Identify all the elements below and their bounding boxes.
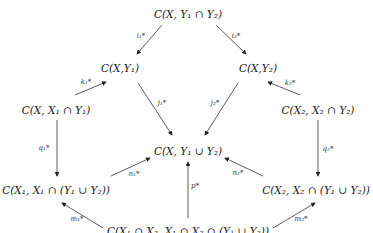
label-q2: q₂* (323, 145, 334, 153)
label-j2: j₂* (211, 99, 219, 107)
node-bottom: C(X₁ ∩ X₂, X₁ ∩ X₂ ∩ (Y₁ ∪ Y₂)) (107, 225, 269, 233)
node-right-upper: C(X,Y₂) (239, 62, 277, 74)
arrow-j1 (138, 83, 172, 135)
label-k2: k₂* (285, 79, 296, 87)
arrows-layer (0, 0, 373, 233)
node-top: C(X, Y₁ ∩ Y₂) (154, 8, 222, 20)
node-center: C(X, Y₁ ∪ Y₂) (154, 145, 222, 157)
label-m2: m₂* (295, 215, 308, 223)
label-n2: n₂* (233, 169, 244, 177)
node-left-mid: C(X, X₁ ∩ Y₁) (22, 104, 91, 116)
label-k1: k₁* (81, 78, 92, 86)
node-left-upper: C(X,Y₁) (101, 62, 139, 74)
node-right-mid: C(X₂, X₂ ∩ Y₂) (282, 104, 355, 116)
arrow-n2 (225, 158, 263, 176)
label-n1: n₁* (129, 170, 140, 178)
label-j1: j₁* (158, 99, 166, 107)
node-left-lower: C(X₁, X₁ ∩ (Y₁ ∪ Y₂)) (2, 184, 110, 196)
label-i2: i₂* (232, 32, 241, 40)
label-m1: m₁* (71, 215, 84, 223)
label-i1: i₁* (137, 32, 146, 40)
arrow-j2 (205, 83, 238, 135)
label-q1: q₁* (39, 144, 50, 152)
label-p: p* (191, 182, 199, 190)
node-right-lower: C(X₂, X₂ ∩ (Y₁ ∪ Y₂)) (262, 184, 370, 196)
